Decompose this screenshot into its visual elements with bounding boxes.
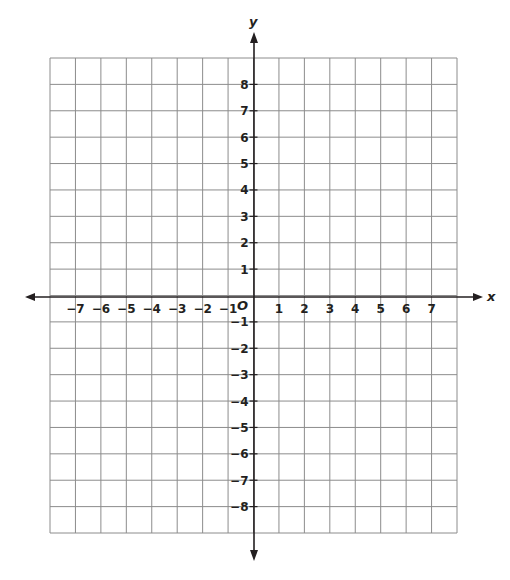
y-tick-label: 8	[240, 78, 248, 92]
axes: x y O	[25, 14, 496, 561]
x-tick-label: −4	[143, 302, 161, 316]
x-tick-label: 1	[275, 302, 283, 316]
x-tick-label: −3	[168, 302, 186, 316]
x-tick-label: −5	[117, 302, 135, 316]
y-tick-label: 6	[240, 131, 248, 145]
origin-label: O	[237, 298, 248, 313]
x-tick-label: 6	[402, 302, 410, 316]
y-axis-down-arrow-icon	[250, 550, 258, 561]
y-tick-label: −3	[230, 368, 248, 382]
x-tick-label: 7	[427, 302, 435, 316]
y-axis-label: y	[249, 14, 258, 29]
y-tick-label: −8	[230, 500, 248, 514]
x-tick-label: −1	[219, 302, 237, 316]
y-tick-label: 4	[240, 183, 248, 197]
y-axis-up-arrow-icon	[250, 32, 258, 43]
x-tick-label: −6	[92, 302, 110, 316]
y-tick-label: 1	[240, 263, 248, 277]
y-tick-label: −6	[230, 447, 248, 461]
y-tick-label: 2	[240, 236, 248, 250]
y-tick-label: 5	[240, 157, 248, 171]
x-axis-label: x	[486, 289, 496, 304]
y-tick-label: −7	[230, 474, 248, 488]
y-tick-label: −1	[230, 315, 248, 329]
y-tick-label: −4	[230, 395, 248, 409]
x-axis-right-arrow-icon	[473, 293, 483, 301]
y-tick-label: −2	[230, 342, 248, 356]
x-tick-label: 5	[377, 302, 385, 316]
y-tick-label: 3	[240, 210, 248, 224]
x-tick-label: −2	[193, 302, 211, 316]
x-tick-label: 4	[351, 302, 359, 316]
coordinate-plane: x y O −7−6−5−4−3−2−11234567 87654321−1−2…	[0, 0, 510, 580]
x-tick-label: −7	[66, 302, 84, 316]
y-tick-label: −5	[230, 421, 248, 435]
x-tick-labels: −7−6−5−4−3−2−11234567	[66, 302, 436, 316]
x-tick-label: 2	[300, 302, 308, 316]
y-tick-label: 7	[240, 104, 248, 118]
x-tick-label: 3	[326, 302, 334, 316]
x-axis-left-arrow-icon	[25, 293, 35, 301]
